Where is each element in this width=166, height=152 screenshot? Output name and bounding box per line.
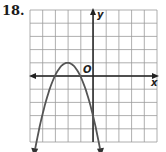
origin-label: O — [83, 64, 92, 75]
y-axis-up-arrow-icon — [90, 8, 96, 15]
curve-left-arrow-icon — [31, 148, 38, 152]
curve-right-arrow-icon — [97, 148, 104, 152]
coordinate-graph: y x O — [0, 0, 166, 152]
x-axis-label: x — [150, 77, 158, 88]
x-axis — [29, 73, 159, 79]
y-axis-label: y — [97, 9, 104, 20]
